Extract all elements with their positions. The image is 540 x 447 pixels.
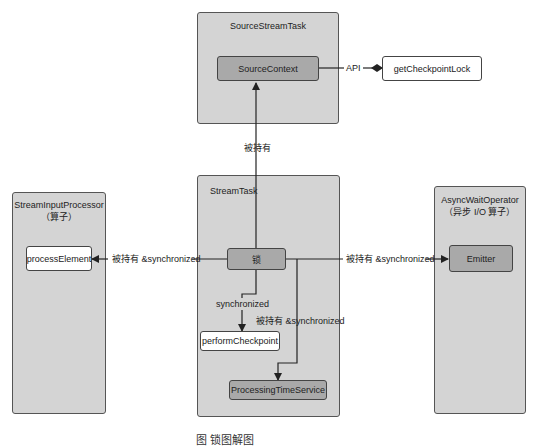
synchronized-edge-label: synchronized: [216, 299, 269, 309]
emitter-node: Emitter: [449, 245, 513, 272]
async-wait-operator-title: AsyncWaitOperator: [435, 194, 525, 206]
lock-node: 锁: [227, 248, 286, 270]
async-wait-operator-subtitle: （异步 I/O 算子）: [435, 206, 525, 218]
stream-input-processor-container: StreamInputProcessor （算子）: [12, 192, 106, 414]
processing-time-service-node: ProcessingTimeService: [229, 380, 327, 400]
source-context-node: SourceContext: [217, 56, 319, 81]
stream-task-title: StreamTask: [210, 185, 339, 197]
api-edge-label: API: [346, 63, 361, 73]
held-sync-right-edge-label: 被持有 &synchronized: [346, 254, 435, 264]
source-stream-task-title: SourceStreamTask: [198, 20, 338, 32]
held-sync-left-edge-label: 被持有 &synchronized: [112, 254, 201, 264]
async-wait-operator-container: AsyncWaitOperator （异步 I/O 算子）: [434, 186, 526, 414]
get-checkpoint-lock-node: getCheckpointLock: [382, 56, 482, 81]
process-element-node: processElement: [26, 246, 92, 271]
perform-checkpoint-node: performCheckpoint: [200, 331, 280, 351]
held-by-edge-label: 被持有: [244, 143, 271, 153]
figure-caption: 图 锁图解图: [196, 431, 254, 447]
stream-input-processor-title: StreamInputProcessor: [13, 199, 105, 211]
held-sync-down-edge-label: 被持有 &synchronized: [256, 316, 345, 326]
stream-input-processor-subtitle: （算子）: [13, 211, 105, 223]
